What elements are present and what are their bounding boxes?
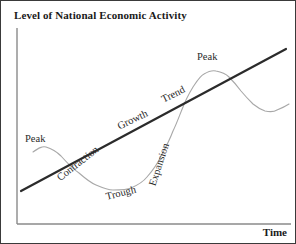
label-peak-right: Peak: [197, 51, 217, 62]
x-axis-label: Time: [263, 226, 287, 238]
plot-area: [1, 1, 296, 244]
label-peak-left: Peak: [25, 133, 45, 144]
business-cycle-figure: Level of National Economic Activity Peak…: [0, 0, 296, 244]
